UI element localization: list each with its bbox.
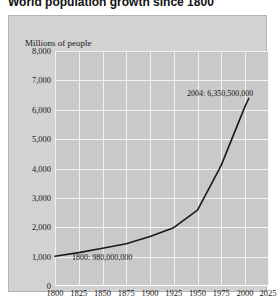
y-tick-8000: 8,000 — [11, 46, 51, 56]
y-tick-3000: 3,000 — [11, 193, 51, 203]
y-tick-4000: 4,000 — [11, 164, 51, 174]
y-tick-5000: 5,000 — [11, 134, 51, 144]
annotation-end-label: 2004: 6,350,500,000 — [187, 89, 253, 98]
x-axis-tick-labels: 1800 1825 1850 1875 1900 1925 1950 1975 … — [55, 288, 269, 303]
population-line-path — [55, 99, 249, 257]
y-tick-1000: 1,000 — [11, 252, 51, 262]
plot-area — [55, 51, 269, 286]
chart-frame: Millions of people 8,000 7,000 6,000 5,0… — [8, 15, 267, 292]
x-tick-2025: 2025 — [248, 288, 277, 298]
page-title: World population growth since 1800 — [8, 0, 270, 10]
population-line-series — [55, 51, 269, 286]
annotation-start-label: 1800: 980,000,000 — [72, 253, 132, 262]
y-axis-tick-labels: 8,000 7,000 6,000 5,000 4,000 3,000 2,00… — [9, 51, 51, 286]
y-tick-7000: 7,000 — [11, 75, 51, 85]
y-tick-6000: 6,000 — [11, 105, 51, 115]
y-tick-2000: 2,000 — [11, 222, 51, 232]
